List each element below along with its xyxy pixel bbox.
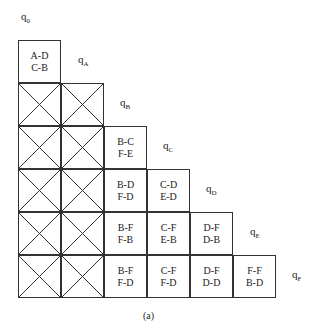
crossed-cell xyxy=(61,255,104,298)
cross-mark-icon xyxy=(61,255,104,298)
state-label-qA: qA xyxy=(78,53,89,68)
cross-mark-icon xyxy=(61,169,104,212)
cross-mark-icon xyxy=(61,83,104,126)
crossed-cell xyxy=(61,83,104,126)
cross-mark-icon xyxy=(18,255,61,298)
pair-cell: C-FF-D xyxy=(147,255,190,298)
cross-mark-icon xyxy=(18,169,61,212)
crossed-cell xyxy=(18,83,61,126)
crossed-cell xyxy=(18,255,61,298)
pair-cell: C-FE-B xyxy=(147,212,190,255)
state-label-qB: qB xyxy=(120,96,130,111)
pair-cell: C-DE-D xyxy=(147,169,190,212)
cell-pairs: C-FF-D xyxy=(148,265,189,289)
pair-cell: D-FD-D xyxy=(190,255,233,298)
cell-pairs: B-DF-D xyxy=(105,179,146,203)
pair-cell: B-CF-E xyxy=(104,126,147,169)
crossed-cell xyxy=(61,212,104,255)
cell-pairs: F-FB-D xyxy=(234,265,275,289)
cell-pairs: B-FF-B xyxy=(105,222,146,246)
cross-mark-icon xyxy=(18,212,61,255)
crossed-cell xyxy=(18,212,61,255)
figure-caption: (a) xyxy=(143,310,154,321)
state-label-qF: qF xyxy=(292,268,301,283)
cross-mark-icon xyxy=(61,212,104,255)
pair-cell: F-FB-D xyxy=(233,255,276,298)
implication-table: q0qAqBqCqDqEqFA-DC-BB-CF-EB-DF-DC-DE-DB-… xyxy=(0,0,318,335)
state-label-qC: qC xyxy=(163,139,173,154)
state-label-q0: q0 xyxy=(21,10,30,25)
cross-mark-icon xyxy=(61,126,104,169)
cross-mark-icon xyxy=(18,126,61,169)
crossed-cell xyxy=(18,126,61,169)
pair-cell: B-FF-D xyxy=(104,255,147,298)
cell-pairs: C-FE-B xyxy=(148,222,189,246)
cell-pairs: D-FD-D xyxy=(191,265,232,289)
pair-cell: B-FF-B xyxy=(104,212,147,255)
state-label-qE: qE xyxy=(250,225,260,240)
pair-cell: B-DF-D xyxy=(104,169,147,212)
crossed-cell xyxy=(61,126,104,169)
state-label-qD: qD xyxy=(206,182,217,197)
cell-pairs: A-DC-B xyxy=(19,50,60,74)
cell-pairs: D-FD-B xyxy=(191,222,232,246)
cross-mark-icon xyxy=(18,83,61,126)
crossed-cell xyxy=(18,169,61,212)
cell-pairs: C-DE-D xyxy=(148,179,189,203)
crossed-cell xyxy=(61,169,104,212)
pair-cell: D-FD-B xyxy=(190,212,233,255)
cell-pairs: B-FF-D xyxy=(105,265,146,289)
cell-pairs: B-CF-E xyxy=(105,136,146,160)
pair-cell: A-DC-B xyxy=(18,40,61,83)
